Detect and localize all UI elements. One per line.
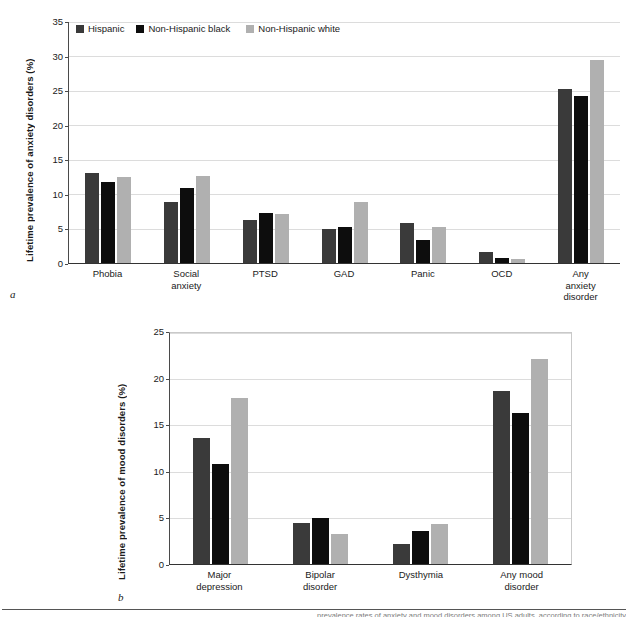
y-axis-tick-label: 0 [159,560,164,570]
bar-group-4 [384,22,463,263]
bar-3-0 [493,391,510,564]
bar-group-2 [371,333,471,564]
bar-3-0 [322,229,336,263]
plot-frame-mood [169,332,572,565]
bar-6-1 [574,96,588,263]
y-axis-tick-label: 5 [159,514,164,524]
y-axis-tick-label: 5 [58,225,63,235]
y-axis-tick-label: 10 [153,467,164,477]
legend-item-2[interactable]: Non-Hispanic white [246,24,340,34]
chart-legend: HispanicNon-Hispanic blackNon-Hispanic w… [76,24,340,34]
bar-0-2 [117,177,131,263]
bar-group-3 [305,22,384,263]
bar-group-6 [541,22,620,263]
plot-area-mood: 0510152025 [169,332,572,565]
footer-caption: prevalence rates of anxiety and mood dis… [2,612,626,617]
bar-group-1 [270,333,370,564]
bar-2-1 [259,213,273,263]
bar-group-5 [463,22,542,263]
x-axis-label-0: Major depression [169,569,270,592]
plot-area-anxiety: 05101520253035 [68,22,620,264]
panel-letter-a: a [10,288,16,300]
bar-2-0 [243,220,257,263]
y-axis-tick-label: 25 [153,327,164,337]
bar-0-0 [85,173,99,263]
bar-6-2 [590,60,604,263]
y-axis-tick-mark [65,57,68,58]
x-axis-label-2: Dysthymia [371,569,472,592]
bar-2-1 [412,531,429,564]
y-axis-tick-mark [65,264,68,265]
bar-0-1 [212,464,229,564]
footer-divider [2,609,626,610]
bar-4-2 [432,227,446,263]
x-axis-labels-anxiety: PhobiaSocial anxietyPTSDGADPanicOCDAny a… [68,268,620,303]
x-axis-label-5: OCD [462,268,541,303]
y-axis-tick-mark [166,332,169,333]
bar-5-0 [479,252,493,263]
y-axis-tick-label: 30 [52,52,63,62]
bar-3-2 [354,202,368,263]
y-axis-tick-mark [65,91,68,92]
bar-group-0 [170,333,270,564]
legend-label: Non-Hispanic white [258,24,340,34]
y-axis-tick-mark [65,22,68,23]
y-axis-tick-mark [166,518,169,519]
x-axis-label-4: Panic [383,268,462,303]
legend-label: Hispanic [88,24,124,34]
bar-1-2 [196,176,210,263]
bar-0-2 [231,398,248,564]
bar-0-1 [101,182,115,263]
bar-5-1 [495,258,509,264]
bar-1-1 [312,518,329,564]
y-axis-tick-label: 20 [52,121,63,131]
y-axis-tick-mark [166,565,169,566]
legend-label: Non-Hispanic black [148,24,230,34]
plot-frame-anxiety [68,22,620,264]
bar-1-0 [293,523,310,564]
bar-3-1 [338,227,352,263]
y-axis-tick-label: 20 [153,374,164,384]
y-axis-tick-label: 10 [52,190,63,200]
y-axis-tick-mark [65,229,68,230]
y-axis-tick-mark [65,195,68,196]
y-axis-label-anxiety: Lifetime prevalence of anxiety disorders… [24,14,35,262]
bar-0-0 [193,438,210,564]
bar-1-1 [180,188,194,263]
y-axis-tick-label: 15 [52,156,63,166]
bar-4-0 [400,223,414,263]
x-axis-label-3: GAD [305,268,384,303]
bar-group-2 [226,22,305,263]
legend-swatch-icon [76,25,84,33]
chart-panel-anxiety: Lifetime prevalence of anxiety disorders… [0,0,628,310]
bar-group-1 [148,22,227,263]
x-axis-labels-mood: Major depressionBipolar disorderDysthymi… [169,569,572,592]
legend-swatch-icon [246,25,254,33]
panel-letter-b: b [118,591,124,603]
chart-panel-mood: Lifetime prevalence of mood disorders (%… [0,310,628,600]
bar-3-1 [512,413,529,564]
y-axis-tick-label: 15 [153,420,164,430]
y-axis-tick-mark [65,160,68,161]
bar-2-0 [393,544,410,564]
legend-item-1[interactable]: Non-Hispanic black [136,24,230,34]
bar-group-3 [471,333,571,564]
y-axis-label-mood: Lifetime prevalence of mood disorders (%… [116,330,127,580]
y-axis-tick-mark [166,379,169,380]
x-axis-label-2: PTSD [226,268,305,303]
bar-2-2 [275,214,289,263]
bar-groups-mood [170,333,571,564]
bar-1-2 [331,534,348,564]
bar-2-2 [431,524,448,564]
legend-item-0[interactable]: Hispanic [76,24,124,34]
y-axis-tick-mark [166,425,169,426]
x-axis-label-1: Social anxiety [147,268,226,303]
bar-4-1 [416,240,430,263]
bar-6-0 [558,89,572,263]
x-axis-label-3: Any mood disorder [471,569,572,592]
x-axis-label-1: Bipolar disorder [270,569,371,592]
legend-swatch-icon [136,25,144,33]
bar-group-0 [69,22,148,263]
y-axis-tick-mark [166,472,169,473]
bar-3-2 [531,359,548,564]
